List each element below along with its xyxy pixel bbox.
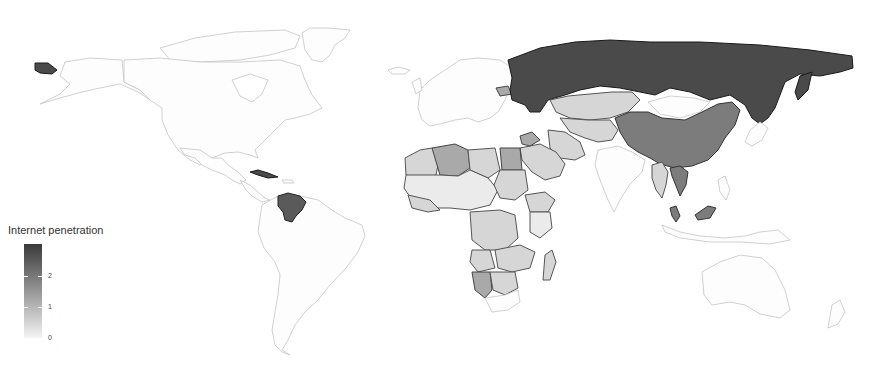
sudan (494, 170, 528, 200)
namibia (472, 272, 492, 298)
legend-tick-label-1: 1 (48, 303, 52, 310)
middle-east-north (520, 132, 540, 146)
legend-tick-label-2: 2 (48, 272, 52, 279)
arctic-islands (160, 30, 300, 62)
legend-tick-label-0: 0 (48, 334, 52, 341)
algeria (432, 144, 470, 176)
east-africa (530, 212, 552, 238)
legend-tick-2 (24, 276, 42, 277)
dr-congo (470, 210, 518, 250)
north-america (124, 58, 322, 165)
egypt (500, 148, 522, 170)
new-zealand (828, 300, 845, 328)
indonesia (662, 225, 790, 244)
greenland (302, 28, 350, 62)
legend-tick-1 (24, 307, 42, 308)
legend-colorbar (24, 244, 42, 338)
australia (702, 255, 790, 318)
myanmar-thailand (652, 162, 668, 198)
world-choropleth-map (0, 0, 877, 374)
chukotka-west (35, 63, 57, 74)
iceland (388, 67, 410, 74)
india (595, 146, 645, 212)
central-america (240, 180, 270, 202)
angola (470, 250, 495, 272)
malaysia-borneo (695, 206, 716, 220)
japan (745, 122, 768, 146)
philippines (718, 176, 730, 200)
caribbean-islands (282, 180, 294, 183)
vietnam (670, 166, 688, 196)
tanzania-zambia (495, 245, 535, 272)
malaysia-peninsula (670, 206, 680, 222)
south-america (258, 196, 365, 355)
cuba (250, 170, 278, 178)
ethiopia (525, 192, 555, 212)
madagascar (543, 250, 556, 280)
kamchatka (795, 72, 812, 100)
legend-title: Internet penetration (8, 224, 103, 236)
